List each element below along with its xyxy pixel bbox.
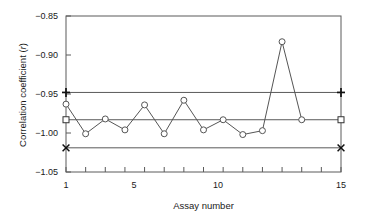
data-point-marker [201, 127, 207, 133]
data-point-marker [83, 131, 89, 137]
data-point-marker [299, 117, 305, 123]
data-point-marker [220, 117, 226, 123]
chart-figure: Correlation coefficient (r) −0.85 −0.90 … [0, 0, 370, 222]
plot-frame [66, 16, 341, 172]
data-point-marker [279, 39, 285, 45]
data-point-marker [161, 131, 167, 137]
data-point-marker [181, 97, 187, 103]
data-point-marker [122, 127, 128, 133]
axes-frame [66, 16, 341, 172]
data-point-marker [259, 128, 265, 134]
axis-ticks [66, 16, 341, 172]
data-point-marker [240, 132, 246, 138]
series-line [66, 42, 302, 135]
data-point-marker [63, 101, 69, 107]
data-series [63, 39, 305, 138]
plot-area [0, 0, 370, 222]
square-marker [63, 117, 69, 123]
data-point-marker [142, 102, 148, 108]
square-marker [338, 117, 344, 123]
data-point-marker [102, 116, 108, 122]
